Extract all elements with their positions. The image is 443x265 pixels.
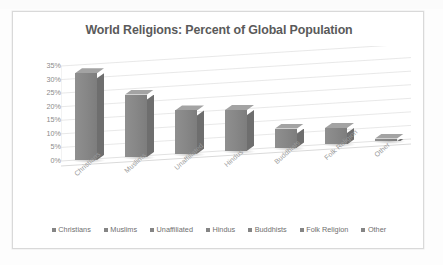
legend-swatch-icon [248, 228, 252, 232]
y-axis-tick-label: 5% [27, 143, 61, 151]
x-axis: ChristiansMuslimsUnaffiliatedHindusBuddh… [61, 46, 411, 206]
x-axis-category-label: Christians [73, 151, 102, 178]
x-axis-category-label: Unaffiliated [173, 142, 205, 171]
x-axis-category-label: Folk Religion [323, 128, 359, 161]
y-axis-tick-label: 15% [27, 116, 61, 124]
legend-item: Other [361, 225, 386, 234]
x-axis-category-label: Other [373, 141, 391, 158]
x-axis-category-label: Buddhists [273, 138, 301, 164]
legend-label: Hindus [212, 225, 235, 234]
legend-label: Folk Religion [306, 225, 348, 234]
y-axis-tick-label: 25% [27, 89, 61, 97]
legend-item: Folk Religion [300, 225, 349, 234]
chart-legend: ChristiansMuslimsUnaffiliatedHindusBuddh… [13, 225, 425, 234]
y-axis-tick-label: 20% [27, 103, 61, 111]
y-axis-tick-label: 30% [27, 76, 61, 84]
legend-item: Unaffiliated [150, 225, 193, 234]
legend-item: Muslims [104, 225, 137, 234]
legend-swatch-icon [150, 228, 154, 232]
legend-item: Christians [52, 225, 91, 234]
legend-label: Other [368, 225, 386, 234]
x-axis-category-label: Muslims [123, 151, 147, 174]
page-root: World Religions: Percent of Global Popul… [0, 0, 443, 265]
legend-swatch-icon [104, 228, 108, 232]
legend-label: Unaffiliated [157, 225, 193, 234]
legend-swatch-icon [52, 228, 56, 232]
legend-swatch-icon [206, 228, 210, 232]
scan-margin [0, 0, 443, 9]
chart-title: World Religions: Percent of Global Popul… [13, 23, 425, 37]
y-axis: 35%30%25%20%15%10%5%0% [27, 46, 61, 161]
y-axis-tick-label: 35% [27, 62, 61, 70]
legend-label: Christians [58, 225, 90, 234]
legend-label: Buddhists [255, 225, 287, 234]
plot-area: 35%30%25%20%15%10%5%0% ChristiansMuslims… [27, 46, 411, 206]
legend-item: Hindus [206, 225, 235, 234]
legend-item: Buddhists [248, 225, 287, 234]
y-axis-tick-label: 10% [27, 130, 61, 138]
x-axis-category-label: Hindus [223, 148, 244, 168]
legend-swatch-icon [300, 228, 304, 232]
chart-container: World Religions: Percent of Global Popul… [12, 11, 424, 249]
legend-label: Muslims [110, 225, 137, 234]
legend-swatch-icon [361, 228, 365, 232]
y-axis-tick-label: 0% [27, 157, 61, 165]
